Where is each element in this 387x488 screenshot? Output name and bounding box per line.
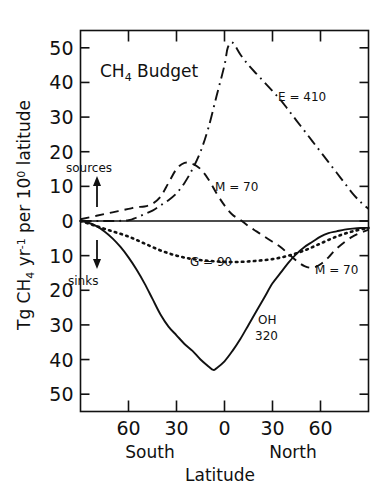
x-tick-label: 30 <box>260 417 284 439</box>
y-tick-label: 10 <box>49 245 73 267</box>
sources-label: sources <box>66 161 112 175</box>
y-axis-tick-labels: 504030201001020304050 <box>49 37 73 405</box>
ylabel-d: latitude <box>14 100 34 171</box>
x-tick-label: 60 <box>308 417 332 439</box>
x-axis-label-south: South <box>125 442 174 462</box>
y-tick-label: 10 <box>49 175 73 197</box>
x-tick-label: 30 <box>164 417 188 439</box>
series-line <box>81 221 369 370</box>
svg-text:Tg CH4 yr-1 per 100 latitude: Tg CH4 yr-1 per 100 latitude <box>14 100 37 331</box>
figure-panel: Tg CH4 yr-1 per 100 latitude 50403020100… <box>0 0 387 488</box>
arrow-up-icon <box>93 176 101 186</box>
ylabel-b-sup: -1 <box>15 238 28 249</box>
y-tick-label: 0 <box>61 210 73 232</box>
y-tick-label: 40 <box>49 349 73 371</box>
ylabel-b: yr <box>14 249 34 271</box>
y-tick-label: 30 <box>49 106 73 128</box>
ylabel-c: per 10 <box>14 178 34 239</box>
annotation-oh-name: OH <box>258 313 276 327</box>
annotation-soil: G = 90 <box>190 255 232 269</box>
y-tick-label: 50 <box>49 383 73 405</box>
x-axis-tick-labels: 603003060 <box>116 417 332 439</box>
y-tick-label: 40 <box>49 71 73 93</box>
ylabel-a-sub: 4 <box>24 272 37 279</box>
title-post: Budget <box>132 61 199 81</box>
arrow-down-icon <box>93 259 101 269</box>
title-sub: 4 <box>125 71 132 84</box>
y-axis-label: Tg CH4 yr-1 per 100 latitude <box>14 100 37 331</box>
x-tick-label: 60 <box>116 417 140 439</box>
annotation-oh-value: 320 <box>255 329 278 343</box>
chart-title: CH4 Budget <box>100 61 199 84</box>
ch4-budget-chart: Tg CH4 yr-1 per 100 latitude 50403020100… <box>0 0 387 488</box>
y-tick-label: 20 <box>49 141 73 163</box>
x-axis-label: Latitude <box>185 465 255 485</box>
y-tick-label: 50 <box>49 37 73 59</box>
ylabel-a: Tg CH <box>14 279 34 331</box>
title-pre: CH <box>100 61 125 81</box>
y-tick-label: 30 <box>49 314 73 336</box>
annotation-emission: E = 410 <box>278 90 326 104</box>
x-tick-label: 0 <box>218 417 230 439</box>
annotation-methane-left: M = 70 <box>215 180 258 194</box>
x-axis-label-north: North <box>269 442 317 462</box>
annotation-methane-right: M = 70 <box>315 263 358 277</box>
sinks-label: sinks <box>68 274 98 288</box>
ylabel-c-sup: 0 <box>15 171 28 178</box>
